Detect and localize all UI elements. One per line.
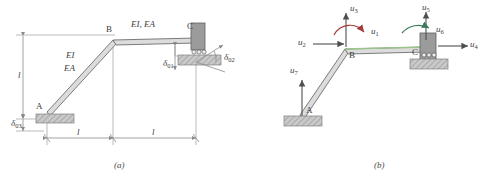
node-label-b-a: A: [306, 105, 313, 115]
node-label-b-b: B: [349, 50, 355, 60]
node-label-a-c: C: [187, 21, 193, 31]
dof-arrow-u6: [402, 25, 429, 33]
dimension-label-height: l: [18, 71, 21, 80]
u2-subscript: 2: [303, 41, 306, 48]
roller-icons-b: [422, 53, 436, 57]
member-label-ea: EA: [64, 64, 75, 73]
label-delta03: δ03: [11, 119, 22, 129]
dof-label-u5: u5: [422, 3, 430, 13]
panel-b-drawing: [246, 0, 492, 187]
u4-subscript: 4: [475, 43, 478, 50]
support-c: [178, 23, 221, 65]
label-delta02: δ02: [224, 53, 235, 63]
delta03-subscript: 03: [15, 122, 21, 129]
reference-lines: [16, 35, 205, 145]
panel-a-drawing: [0, 0, 246, 187]
node-label-b-c: C: [412, 47, 418, 57]
dof-label-u1: u1: [371, 27, 379, 37]
u5-subscript: 5: [427, 6, 430, 13]
caption-a: (a): [114, 160, 125, 170]
dof-label-u6: u6: [436, 25, 444, 35]
label-delta01: δ01: [163, 59, 174, 69]
dof-label-u3: u3: [350, 4, 358, 14]
dof-label-u2: u2: [298, 38, 306, 48]
dimension-spans: [44, 134, 199, 142]
roller-icons: [192, 50, 206, 54]
node-label-a-a: A: [36, 101, 43, 111]
u7-subscript: 7: [295, 69, 298, 76]
u3-subscript: 3: [355, 7, 358, 14]
support-a: [36, 114, 74, 123]
dimension-label-span-left: l: [77, 128, 80, 137]
member-label-ei: EI: [66, 51, 75, 60]
panel-b: B C A u1 u2 u3 u4 u5 u6 u7 (b): [246, 0, 492, 187]
panel-a: B C A EI EA EI, EA l l l δ03 δ01 δ02 (a): [0, 0, 246, 187]
u1-subscript: 1: [376, 30, 379, 37]
dimension-label-span-right: l: [152, 128, 155, 137]
caption-b: (b): [374, 160, 385, 170]
delta02-subscript: 02: [228, 56, 234, 63]
frame-members-b: [300, 47, 425, 119]
support-a-b: [284, 116, 322, 126]
dof-label-u4: u4: [470, 40, 478, 50]
member-label-ei-ea: EI, EA: [131, 20, 155, 29]
delta01-subscript: 01: [167, 62, 173, 69]
u6-subscript: 6: [441, 28, 444, 35]
node-label-a-b: B: [106, 24, 112, 34]
dof-label-u7: u7: [290, 66, 298, 76]
figure-root: B C A EI EA EI, EA l l l δ03 δ01 δ02 (a): [0, 0, 492, 187]
dof-arrow-u1: [334, 25, 364, 35]
